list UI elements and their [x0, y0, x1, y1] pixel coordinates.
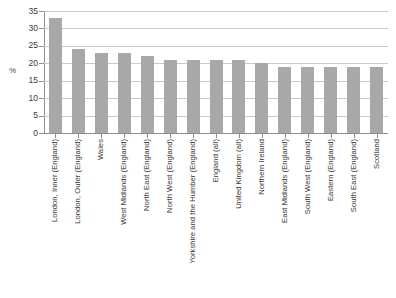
x-axis-tick-labels: London, Inner (England)London, Outer (En…: [44, 139, 388, 294]
x-axis-label: London, Inner (England): [48, 139, 62, 291]
bar-series: [44, 11, 388, 133]
x-axis-label-text: London, Inner (England): [51, 139, 59, 222]
x-tick-mark: [193, 134, 194, 138]
y-axis-tick-30: 30: [29, 24, 38, 33]
x-axis-label: West Midlands (England): [117, 139, 131, 291]
x-axis-label-text: South West (England): [304, 139, 312, 214]
y-axis-unit-label: %: [2, 66, 16, 75]
x-axis-label-text: North East (England): [143, 139, 151, 211]
bar[interactable]: [347, 67, 360, 133]
x-axis-label-text: Northern Ireland: [258, 139, 266, 195]
x-tick-mark: [170, 134, 171, 138]
y-axis-tick-25: 25: [29, 41, 38, 50]
y-axis-tick-0: 0: [33, 129, 38, 138]
x-tick-mark: [285, 134, 286, 138]
x-tick-mark: [216, 134, 217, 138]
bar[interactable]: [118, 53, 131, 133]
bar[interactable]: [255, 63, 268, 133]
bar[interactable]: [210, 60, 223, 133]
y-axis-tick-labels: 35302520151050: [18, 0, 38, 140]
y-tick-mark: [39, 28, 44, 29]
bar[interactable]: [49, 18, 62, 133]
x-axis-label: East Midlands (England): [278, 139, 292, 291]
x-axis-label-text: London, Outer (England): [74, 139, 82, 224]
x-axis-label-text: Wales: [97, 139, 105, 160]
bar[interactable]: [164, 60, 177, 133]
x-axis-label-text: Yorkshire and the Humber (England): [189, 139, 197, 264]
x-tick-mark: [124, 134, 125, 138]
x-axis-label-text: East Midlands (England): [281, 139, 289, 223]
y-axis-tick-15: 15: [29, 76, 38, 85]
bar[interactable]: [95, 53, 108, 133]
x-axis-label: London, Outer (England): [71, 139, 85, 291]
y-tick-mark: [39, 98, 44, 99]
bar[interactable]: [141, 56, 154, 133]
x-axis-label-text: West Midlands (England): [120, 139, 128, 225]
x-tick-mark: [354, 134, 355, 138]
x-axis-label-text: United Kingdom (all): [235, 139, 243, 209]
y-axis-tick-5: 5: [33, 111, 38, 120]
x-tick-mark: [78, 134, 79, 138]
x-tick-mark: [308, 134, 309, 138]
bar[interactable]: [324, 67, 337, 133]
x-tick-mark: [377, 134, 378, 138]
y-tick-mark: [39, 63, 44, 64]
x-axis-label: Northern Ireland: [255, 139, 269, 291]
y-axis-tick-20: 20: [29, 59, 38, 68]
plot-area: [44, 11, 388, 133]
x-axis-label: Scotland: [370, 139, 384, 291]
x-tick-mark: [101, 134, 102, 138]
x-axis-label: Wales: [94, 139, 108, 291]
x-axis-label: North West (England): [163, 139, 177, 291]
x-axis-label-text: South East (England): [350, 139, 358, 212]
y-axis-tick-10: 10: [29, 94, 38, 103]
x-tick-mark: [55, 134, 56, 138]
bar[interactable]: [278, 67, 291, 133]
bar[interactable]: [72, 49, 85, 133]
y-tick-mark: [39, 116, 44, 117]
x-axis-label: South East (England): [347, 139, 361, 291]
y-tick-mark: [39, 46, 44, 47]
bar[interactable]: [232, 60, 245, 133]
y-tick-mark: [39, 11, 44, 12]
y-tick-mark: [39, 81, 44, 82]
x-tick-mark: [262, 134, 263, 138]
x-axis-label: Eastern (England): [324, 139, 338, 291]
x-axis-label-text: England (all): [212, 139, 220, 182]
x-axis-label: Yorkshire and the Humber (England): [186, 139, 200, 291]
x-tick-mark: [331, 134, 332, 138]
x-tick-mark: [239, 134, 240, 138]
x-axis-label: United Kingdom (all): [232, 139, 246, 291]
x-axis-label: North East (England): [140, 139, 154, 291]
x-axis-label: England (all): [209, 139, 223, 291]
y-tick-mark: [39, 133, 44, 134]
bar-chart: % 35302520151050 London, Inner (England)…: [0, 0, 396, 298]
x-axis-label: South West (England): [301, 139, 315, 291]
bar[interactable]: [370, 67, 383, 133]
y-axis-tick-35: 35: [29, 7, 38, 16]
x-tick-mark: [147, 134, 148, 138]
x-axis-label-text: North West (England): [166, 139, 174, 213]
bar[interactable]: [187, 60, 200, 133]
bar[interactable]: [301, 67, 314, 133]
x-axis-label-text: Eastern (England): [327, 139, 335, 201]
x-axis-label-text: Scotland: [373, 139, 381, 169]
